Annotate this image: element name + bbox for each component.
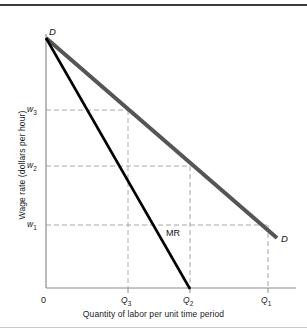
y-tick-label-w2: w2 <box>27 160 37 172</box>
demand-curve-top-label: D <box>49 26 56 37</box>
x-tick-label-q1-sub: 1 <box>268 300 272 307</box>
x-tick-label-q3: Q3 <box>121 295 131 307</box>
y-tick-label-w1-sub: 1 <box>33 224 37 231</box>
mr-curve-label: MR <box>166 228 180 238</box>
x-tick-label-q2-base: Q <box>183 295 190 305</box>
x-axis-title: Quantity of labor per unit time period <box>0 309 307 319</box>
y-tick-label-w2-sub: 2 <box>33 165 37 172</box>
chart-plot-area <box>0 0 307 333</box>
x-tick-label-q1: Q1 <box>261 295 271 307</box>
demand-curve-d <box>46 38 277 238</box>
demand-curve-end-label: D <box>281 233 288 244</box>
x-tick-label-q1-base: Q <box>261 295 268 305</box>
y-tick-label-w1: w1 <box>27 219 37 231</box>
y-axis-title: Wage rate (dollars per hour) <box>17 55 27 275</box>
figure-container: D D MR w3 w2 w1 0 Q3 Q2 Q1 Quantity of l… <box>0 0 307 333</box>
x-tick-label-q3-base: Q <box>121 295 128 305</box>
marginal-revenue-curve-mr <box>46 38 190 289</box>
x-tick-label-q3-sub: 3 <box>128 300 132 307</box>
x-tick-label-q2: Q2 <box>183 295 193 307</box>
y-tick-label-w3-sub: 3 <box>33 109 37 116</box>
x-tick-label-q2-sub: 2 <box>190 300 194 307</box>
y-tick-label-w3: w3 <box>27 104 37 116</box>
x-tick-label-origin: 0 <box>41 295 46 305</box>
